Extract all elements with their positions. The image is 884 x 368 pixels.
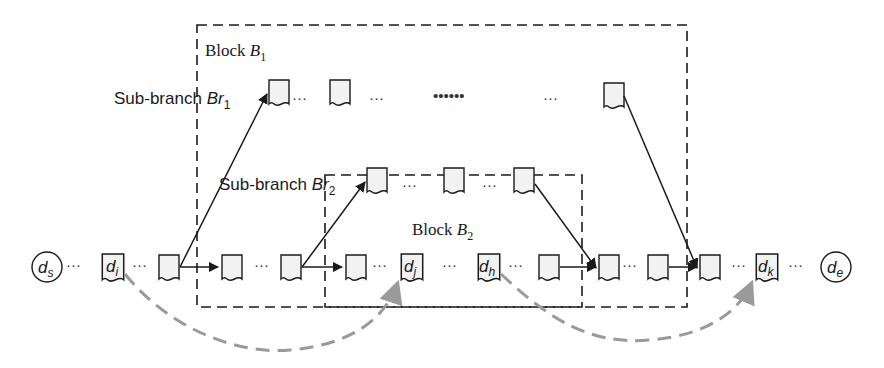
svg-text:···: ··· bbox=[372, 256, 387, 273]
doc-icon bbox=[514, 168, 534, 193]
svg-text:···: ··· bbox=[788, 256, 803, 273]
sub-branch-br1-label: Sub-branch Br1 bbox=[114, 89, 231, 112]
svg-text:Block B2: Block B2 bbox=[412, 220, 473, 243]
svg-text:···: ··· bbox=[66, 256, 81, 273]
doc-icon bbox=[539, 255, 559, 280]
svg-text:···: ··· bbox=[292, 89, 307, 106]
svg-text:···: ··· bbox=[254, 256, 269, 273]
svg-text:···: ··· bbox=[622, 256, 637, 273]
doc-icon bbox=[222, 255, 242, 280]
dashed-curves bbox=[125, 274, 752, 351]
doc-icon bbox=[599, 255, 619, 280]
long-ellipsis: •••••• bbox=[433, 87, 465, 104]
branch-block-diagram: Block B1 Block B2 Sub-branch Br1 Sub-bra… bbox=[0, 0, 884, 368]
sub-branch-br2-label: Sub-branch Br2 bbox=[219, 175, 336, 198]
doc-icon bbox=[367, 168, 387, 193]
doc-icon bbox=[700, 255, 720, 280]
doc-icon bbox=[281, 255, 301, 280]
doc-icon bbox=[346, 255, 366, 280]
svg-text:···: ··· bbox=[731, 256, 746, 273]
doc-icon bbox=[444, 168, 464, 193]
svg-text:···: ··· bbox=[508, 256, 523, 273]
svg-text:···: ··· bbox=[132, 256, 147, 273]
block-b1-label: Block bbox=[205, 41, 250, 60]
br1-row: ··· ··· •••••• ··· bbox=[269, 80, 624, 108]
svg-text:···: ··· bbox=[482, 176, 497, 193]
doc-icon bbox=[648, 255, 668, 280]
main-chain: ds ··· di ··· ··· ··· dj ··· dh ··· ··· … bbox=[32, 252, 851, 282]
svg-text:···: ··· bbox=[402, 176, 417, 193]
svg-text:···: ··· bbox=[543, 89, 558, 106]
doc-icon bbox=[159, 255, 179, 280]
doc-icon bbox=[269, 80, 289, 105]
svg-text:···: ··· bbox=[442, 256, 457, 273]
doc-icon bbox=[330, 80, 350, 105]
block-b2-label: Block bbox=[412, 220, 457, 239]
doc-icon bbox=[604, 83, 624, 108]
svg-text:Block B1: Block B1 bbox=[205, 41, 266, 64]
svg-text:···: ··· bbox=[369, 89, 384, 106]
br2-row: ··· ··· bbox=[367, 168, 534, 193]
